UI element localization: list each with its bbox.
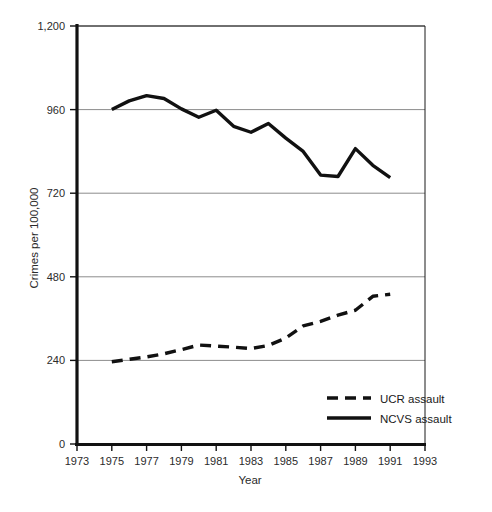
x-axis-tick-label: 1987 (308, 455, 332, 467)
chart-svg: 02404807209601,200 197319751977197919811… (0, 0, 492, 512)
y-axis-tick-label: 240 (47, 354, 65, 366)
y-axis-tick-label: 1,200 (37, 20, 65, 32)
x-axis-tick-label: 1973 (65, 455, 89, 467)
x-axis-title: Year (238, 474, 261, 486)
x-axis-tick-label: 1979 (169, 455, 193, 467)
legend-item-label: UCR assault (380, 393, 445, 405)
x-axis-tick-label: 1991 (378, 455, 402, 467)
x-axis-tick-label: 1989 (343, 455, 367, 467)
y-axis-tick-label: 720 (47, 187, 65, 199)
y-axis-tick-labels-group: 02404807209601,200 (37, 20, 65, 450)
x-axis-tick-label: 1977 (134, 455, 158, 467)
y-axis-tick-label: 480 (47, 271, 65, 283)
y-axis-tick-label: 0 (59, 438, 65, 450)
x-axis-tick-label: 1983 (239, 455, 263, 467)
x-axis-tick-label: 1981 (204, 455, 228, 467)
plot-area-background (76, 26, 425, 444)
legend-item-label: NCVS assault (380, 413, 452, 425)
chart-figure: 02404807209601,200 197319751977197919811… (0, 0, 492, 512)
y-axis-tick-label: 960 (47, 104, 65, 116)
x-axis-tick-label: 1993 (413, 455, 437, 467)
x-axis-tick-label: 1985 (274, 455, 298, 467)
y-axis-title: Crimes per 100,000 (28, 188, 40, 289)
x-axis-tick-label: 1975 (100, 455, 124, 467)
x-axis-tick-labels-group: 1973197519771979198119831985198719891991… (65, 455, 437, 467)
